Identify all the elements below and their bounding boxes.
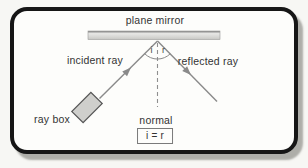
reflected-ray-label: reflected ray [178, 55, 238, 67]
angle-of-incidence-label: i [150, 45, 152, 55]
normal-label: normal [139, 114, 172, 126]
law-of-reflection-box: i = r [137, 128, 173, 144]
plane-mirror-label: plane mirror [126, 14, 184, 26]
incident-ray-label: incident ray [67, 54, 123, 66]
mirror-bar [88, 31, 220, 40]
angle-of-reflection-label: r [162, 45, 165, 55]
ray-box-shape [72, 92, 102, 122]
ray-box-label: ray box [34, 113, 70, 125]
reflection-diagram: plane mirror incident ray reflected ray … [0, 0, 308, 168]
